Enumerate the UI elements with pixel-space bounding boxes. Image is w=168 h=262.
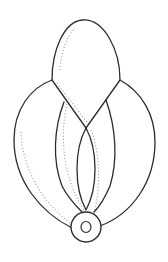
base-ring-hole: [81, 222, 91, 233]
shading-hatch: [21, 28, 98, 238]
right-outer-segment: [100, 80, 155, 226]
right-inner-segment: [94, 100, 115, 212]
flower-diagram: [0, 0, 168, 262]
center-segment: [77, 128, 95, 210]
